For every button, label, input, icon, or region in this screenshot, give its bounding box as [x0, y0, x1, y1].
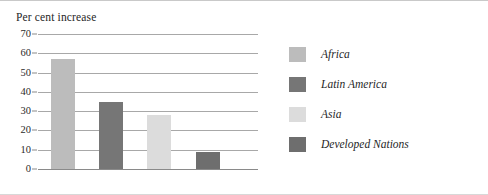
- plot-area: 706050403020100: [38, 34, 258, 169]
- x-axis-baseline: [38, 169, 258, 170]
- y-tick-mark: [32, 34, 37, 35]
- legend-swatch-icon: [289, 107, 306, 122]
- legend-label: Developed Nations: [321, 138, 409, 151]
- bar: [51, 59, 75, 169]
- y-tick-mark: [32, 169, 37, 170]
- legend-item: Asia: [289, 99, 479, 129]
- legend-label: Latin America: [321, 78, 387, 91]
- chart-figure: Per cent increase 706050403020100 Africa…: [0, 0, 488, 195]
- bar: [147, 115, 171, 169]
- legend-label: Africa: [321, 48, 350, 61]
- legend-item: Developed Nations: [289, 129, 479, 159]
- legend-swatch-icon: [289, 47, 306, 62]
- bar-series: [38, 34, 258, 169]
- y-tick-mark: [32, 91, 37, 92]
- y-tick-mark: [32, 72, 37, 73]
- legend-item: Africa: [289, 39, 479, 69]
- y-tick-mark: [32, 53, 37, 54]
- y-tick-label: 30: [21, 106, 32, 117]
- y-tick-label: 50: [21, 67, 32, 78]
- legend-swatch-icon: [289, 77, 306, 92]
- chart-legend: AfricaLatin AmericaAsiaDeveloped Nations: [289, 39, 479, 159]
- y-axis-title: Per cent increase: [16, 11, 96, 24]
- y-tick-label: 0: [26, 164, 31, 175]
- y-tick-label: 70: [21, 29, 32, 40]
- y-tick-label: 20: [21, 125, 32, 136]
- bar: [196, 152, 220, 169]
- bar: [99, 102, 123, 170]
- legend-item: Latin America: [289, 69, 479, 99]
- y-tick-mark: [32, 130, 37, 131]
- legend-label: Asia: [321, 108, 341, 121]
- y-tick-label: 10: [21, 144, 32, 155]
- y-tick-label: 40: [21, 87, 32, 98]
- y-tick-label: 60: [21, 48, 32, 59]
- legend-swatch-icon: [289, 137, 306, 152]
- y-tick-mark: [32, 149, 37, 150]
- y-tick-mark: [32, 111, 37, 112]
